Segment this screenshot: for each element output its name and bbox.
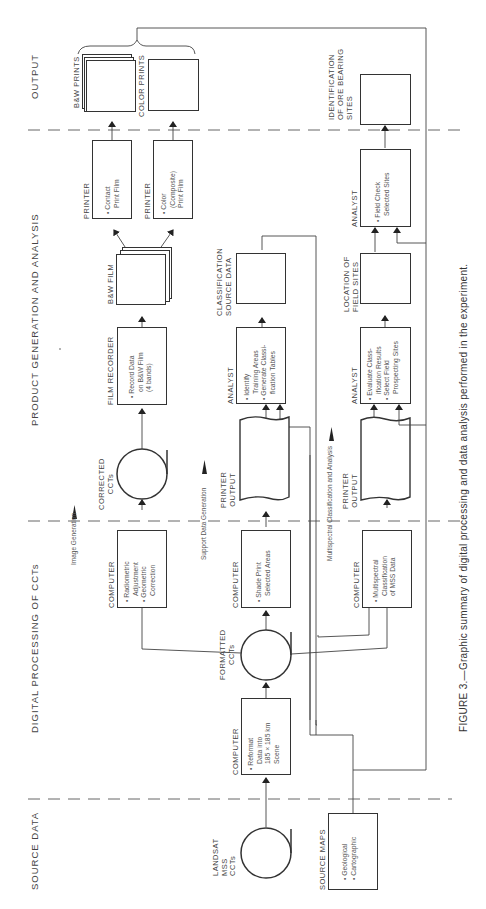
classification-source-label: CLASSIFICATION SOURCE DATA [215, 248, 233, 316]
item: Scene [273, 723, 282, 770]
item: • Select Field [383, 341, 392, 400]
item: Selected Sites [383, 173, 392, 222]
line1: FORMATTED [218, 629, 227, 680]
printer-contact-text: • Contact Print Film [104, 179, 121, 214]
item: Print Film [113, 179, 122, 214]
item: • Generate Classi- [260, 345, 269, 400]
color-prints-box [148, 59, 199, 111]
location-field-sites-box [360, 253, 411, 304]
item: Adjustment [132, 561, 141, 602]
computer-radiometric-text: • Radiometric Adjustment • Geometric Cor… [123, 561, 157, 602]
line1: CORRECTED [97, 458, 106, 510]
item: (4 bands) [145, 352, 154, 398]
item: • Reformat [247, 723, 256, 770]
corrected-ccts-label: CORRECTED CCTs [97, 458, 115, 510]
printer-color-text: • Color (Composite) Print Film [160, 171, 186, 214]
section-source-data: SOURCE DATA [29, 812, 40, 890]
line2: OUTPUT [350, 473, 359, 509]
section-output: OUTPUT [29, 54, 40, 99]
computer-shade-print-text: • Shade Print Selected Areas [255, 550, 272, 602]
computer-multispectral-text: • Multispectral Classification of MSS Da… [372, 556, 398, 602]
bw-prints-box [86, 60, 136, 112]
analyst-evaluate-label: ANALYST [350, 367, 359, 404]
item: • Geometric [140, 561, 149, 602]
line1: PRINTER [341, 473, 350, 509]
item: fication Tables [269, 345, 278, 400]
section-product-generation: PRODUCT GENERATION AND ANALYSIS [29, 213, 40, 426]
flow-support-data-generation: Support Data Generation [200, 488, 207, 560]
computer-radiometric-label: COMPUTER [107, 561, 116, 608]
identification-line1: IDENTIFICATION [327, 48, 336, 120]
printer-output-1-label: PRINTER OUTPUT [219, 472, 237, 508]
item: • Cartographic [350, 837, 359, 880]
location-field-sites-label: LOCATION OF FIELD SITES [342, 256, 360, 312]
item: Prospecting Sites [392, 341, 401, 400]
identification-label: IDENTIFICATION OF ORE BEARING SITES [327, 48, 354, 120]
bw-film-box [116, 254, 166, 305]
item: • Geological [341, 837, 350, 880]
item: Classification [381, 556, 390, 602]
bw-film-label: B&W FILM [106, 264, 115, 304]
item: • Color [160, 171, 169, 214]
source-maps-text: • Geological • Cartographic [341, 837, 358, 880]
item: ification Results [375, 341, 384, 400]
flow-image-generation: Image Generation [70, 513, 77, 565]
item: Correction [149, 561, 158, 602]
item: Selected Areas [264, 550, 273, 602]
film-recorder-label: FILM RECORDER [106, 336, 115, 405]
classification-source-box [236, 253, 286, 304]
line3: CCTs [229, 838, 238, 876]
item: Data into [256, 723, 265, 770]
analyst-training-text: • Identify Training Areas • Generate Cla… [243, 345, 277, 400]
item: • Radiometric [123, 561, 132, 602]
flow-multispectral-classification: Multispectral Classification and Analysi… [326, 446, 333, 561]
source-maps-label: SOURCE MAPS [318, 829, 327, 890]
analyst-training-label: ANALYST [226, 367, 235, 404]
color-prints-label: COLOR PRINTS [137, 55, 146, 117]
figure-caption: FIGURE 3.—Graphic summary of digital pro… [458, 264, 469, 732]
line2: CCTs [106, 458, 115, 510]
item: • Multispectral [372, 556, 381, 602]
line1: LOCATION OF [342, 256, 351, 312]
line1: CLASSIFICATION [215, 248, 224, 316]
item: • Identify [243, 345, 252, 400]
analyst-field-check-text: • Field Check Selected Sites [374, 173, 391, 222]
item: • Field Check [374, 173, 383, 222]
printer-contact-label: PRINTER [82, 183, 91, 219]
computer-reformat-text: • Reformat Data into 185 × 185 km Scene [247, 723, 281, 770]
item: on B&W Film [137, 352, 146, 398]
computer-reformat-label: COMPUTER [231, 728, 240, 775]
analyst-evaluate-text: • Evaluate Class- ification Results • Se… [366, 341, 400, 400]
line2: FIELD SITES [351, 256, 360, 312]
line2: OUTPUT [228, 472, 237, 508]
section-digital-processing: DIGITAL PROCESSING OF CCTs [29, 563, 40, 733]
landsat-label: LANDSAT MSS CCTs [212, 838, 238, 876]
item: • Evaluate Class- [366, 341, 375, 400]
item: • Record Data [128, 352, 137, 398]
item: 185 × 185 km [264, 723, 273, 770]
analyst-field-check-label: ANALYST [350, 190, 359, 227]
line2: SOURCE DATA [224, 248, 233, 316]
item: • Contact [104, 179, 113, 214]
line2: CCTs [227, 629, 236, 680]
identification-box [360, 74, 411, 125]
identification-line2: OF ORE BEARING [336, 48, 345, 120]
printer-output-2-label: PRINTER OUTPUT [341, 473, 359, 509]
item: • Shade Print [255, 550, 264, 602]
item: of MSS Data [389, 556, 398, 602]
line1: PRINTER [219, 472, 228, 508]
item: Print Film [177, 171, 186, 214]
computer-shade-print-label: COMPUTER [231, 561, 240, 608]
identification-line3: SITES [345, 48, 354, 120]
computer-multispectral-label: COMPUTER [352, 561, 361, 608]
item: (Composite) [169, 171, 178, 214]
printer-color-label: PRINTER [143, 183, 152, 219]
formatted-ccts-label: FORMATTED CCTs [218, 629, 236, 680]
bw-prints-label: B&W PRINTS [72, 56, 81, 108]
item: Training Areas [252, 345, 261, 400]
film-recorder-text: • Record Data on B&W Film (4 bands) [128, 352, 154, 398]
